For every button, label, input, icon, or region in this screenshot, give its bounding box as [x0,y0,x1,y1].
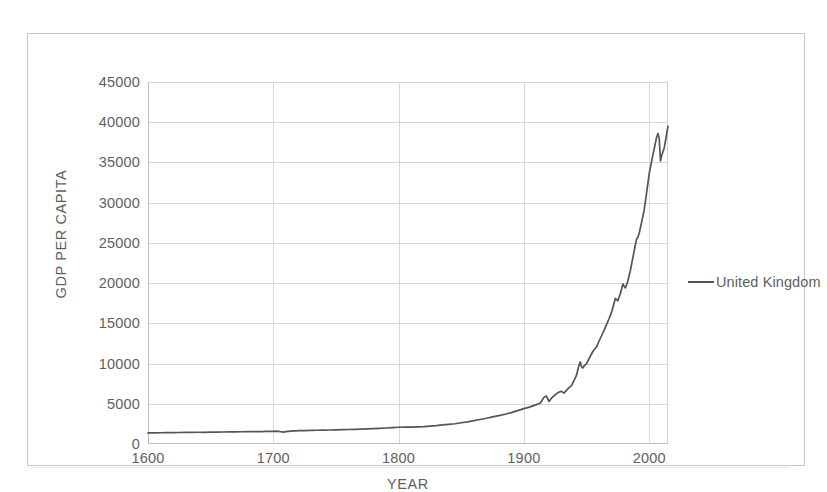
y-axis-tick-label: 40000 [74,114,140,130]
y-axis-tick-label: 30000 [74,195,140,211]
y-axis-tick-label: 35000 [74,154,140,170]
chart-frame: 4500040000350003000025000200001500010000… [27,33,805,466]
series-united-kingdom [148,82,668,444]
scan-edge-artifact [30,467,790,468]
y-axis-tick-label: 25000 [74,235,140,251]
plot-area [148,82,668,444]
y-axis-tick-label: 0 [74,436,140,452]
y-axis-tick-label: 45000 [74,74,140,90]
x-axis-tick-label: 1800 [382,450,415,466]
y-axis-tick-label: 5000 [74,396,140,412]
y-axis-tick-labels: 4500040000350003000025000200001500010000… [68,82,140,444]
legend-line-swatch-icon [688,281,714,283]
x-axis-tick-label: 1900 [507,450,540,466]
legend-label-united-kingdom: United Kingdom [716,274,821,290]
chart-legend: United Kingdom [688,274,821,290]
x-axis-tick-label: 2000 [633,450,666,466]
y-axis-tick-label: 20000 [74,275,140,291]
series-line [148,126,668,433]
x-axis-tick-labels: 16001700180019002000 [148,450,668,472]
x-axis-tick-label: 1700 [257,450,290,466]
y-axis-tick-label: 10000 [74,356,140,372]
x-axis-title: YEAR [148,476,668,492]
y-axis-title: GDP PER CAPITA [53,139,69,329]
x-axis-tick-label: 1600 [131,450,164,466]
y-axis-tick-label: 15000 [74,315,140,331]
